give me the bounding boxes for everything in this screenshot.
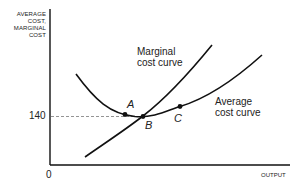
x-tick-0: 0	[46, 169, 52, 180]
marginal-cost-label: Marginal cost curve	[137, 46, 183, 68]
y-tick-140: 140	[29, 110, 46, 121]
point-a-label: A	[127, 98, 134, 110]
average-cost-label: Average cost curve	[215, 96, 261, 118]
point-a-marker	[123, 112, 128, 117]
x-axis-title: OUTPUT	[261, 172, 286, 178]
y-axis-title: AVERAGE COST, MARGINAL COST	[4, 11, 46, 39]
point-c-marker	[178, 104, 183, 109]
point-b-label: B	[145, 119, 152, 131]
point-c-label: C	[174, 112, 182, 124]
